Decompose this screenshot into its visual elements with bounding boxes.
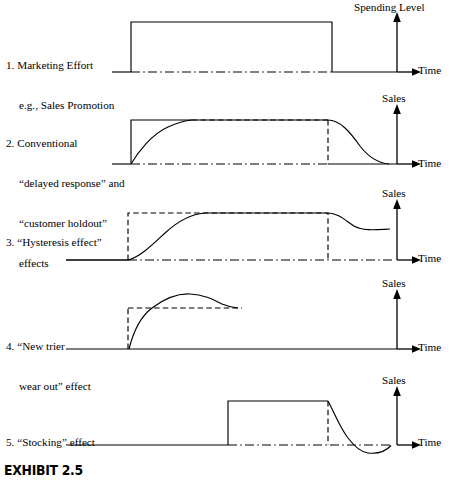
panel-3-promotion-window: [128, 213, 328, 260]
panel-3-x-axis-label: Time: [418, 252, 441, 264]
panel-5-promotion-step: [228, 401, 328, 445]
panel-5-y-axis-label: Sales: [382, 374, 406, 386]
panel-4-y-axis-label: Sales: [382, 277, 406, 289]
panel-2-promotion-rise: [131, 120, 192, 164]
panel-2-x-axis-label: Time: [418, 157, 441, 169]
panel-1-x-axis-label: Time: [418, 64, 441, 76]
panel-1-step-pulse: [131, 22, 332, 72]
exhibit-figure: 1. Marketing Effort e.g., Sales Promotio…: [0, 0, 449, 482]
panel-3-y-axis-label: Sales: [382, 187, 406, 199]
panel-marketing-effort: 1. Marketing Effort e.g., Sales Promotio…: [0, 0, 449, 90]
panel-3-label-line1: 3. “Hysteresis effect”: [6, 236, 102, 249]
panel-5-y-axis-arrowhead: [393, 386, 401, 396]
panel-5-x-axis-label: Time: [418, 436, 441, 448]
panel-2-y-axis-label: Sales: [382, 92, 406, 104]
panel-1-label-line1: 1. Marketing Effort: [6, 59, 114, 72]
exhibit-caption: EXHIBIT 2.5: [4, 462, 83, 478]
panel-3-label: 3. “Hysteresis effect”: [6, 209, 102, 276]
panel-2-label-line1: 2. Conventional: [6, 137, 125, 150]
panel-hysteresis-effect: 3. “Hysteresis effect” Sales Time: [0, 185, 449, 275]
panel-conventional-delayed-response: 2. Conventional “delayed response” and “…: [0, 90, 449, 185]
panel-4-y-axis-arrowhead: [393, 289, 401, 299]
panel-stocking-effect: 5. “Stocking” effect Sales Time: [0, 370, 449, 465]
panel-1-y-axis-label: Spending Level: [354, 1, 425, 13]
panel-1-y-axis-arrowhead: [393, 12, 401, 22]
panel-3-sales-curve: [66, 213, 390, 260]
panel-4-sales-curve: [129, 294, 238, 349]
panel-new-trier-wear-out: 4. “New trier wear out” effect Sales Tim…: [0, 275, 449, 370]
panel-4-label-line1: 4. “New trier: [6, 340, 91, 353]
panel-3-y-axis-arrowhead: [393, 199, 401, 209]
panel-2-sales-curve: [131, 120, 389, 164]
panel-5-label-line1: 5. “Stocking” effect: [6, 436, 95, 449]
panel-4-x-axis-label: Time: [418, 341, 441, 353]
panel-2-y-axis-arrowhead: [393, 104, 401, 114]
